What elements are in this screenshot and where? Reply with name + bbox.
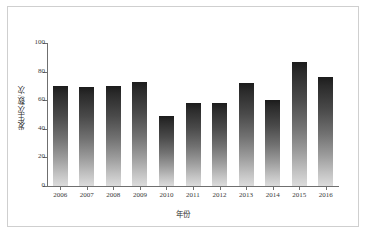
x-tick-mark xyxy=(60,186,61,190)
bar[interactable] xyxy=(212,103,227,186)
x-axis-title: 年份 xyxy=(0,208,367,219)
x-tick-mark xyxy=(273,186,274,190)
x-tick-mark xyxy=(326,186,327,190)
bar[interactable] xyxy=(132,82,147,186)
bar[interactable] xyxy=(106,86,121,186)
x-tick-mark xyxy=(246,186,247,190)
x-tick-mark xyxy=(299,186,300,190)
bar[interactable] xyxy=(318,77,333,186)
y-tick-label: 0 xyxy=(42,181,46,190)
x-tick-label: 2010 xyxy=(153,191,180,199)
x-tick-label: 2006 xyxy=(47,191,74,199)
y-tick-label: 80 xyxy=(38,67,45,76)
y-tick-label: 40 xyxy=(38,124,45,133)
bar[interactable] xyxy=(79,87,94,186)
chart-canvas: 发生次数/次 020406080100 20062007200820092010… xyxy=(0,0,367,235)
x-tick-mark xyxy=(113,186,114,190)
x-tick-mark xyxy=(220,186,221,190)
x-tick-mark xyxy=(193,186,194,190)
bar[interactable] xyxy=(239,83,254,186)
bar[interactable] xyxy=(159,116,174,186)
x-tick-label: 2014 xyxy=(259,191,286,199)
bar[interactable] xyxy=(265,100,280,186)
x-tick-mark xyxy=(140,186,141,190)
y-tick-label: 60 xyxy=(38,95,45,104)
x-tick-label: 2015 xyxy=(286,191,313,199)
x-tick-mark xyxy=(87,186,88,190)
x-tick-label: 2013 xyxy=(233,191,260,199)
bar[interactable] xyxy=(53,86,68,186)
x-tick-label: 2016 xyxy=(312,191,339,199)
y-axis-line xyxy=(47,43,48,187)
y-tick-label: 100 xyxy=(35,38,46,47)
x-tick-label: 2008 xyxy=(100,191,127,199)
bar[interactable] xyxy=(186,103,201,186)
x-tick-label: 2009 xyxy=(127,191,154,199)
y-axis-title: 发生次数/次 xyxy=(16,86,28,130)
x-tick-label: 2012 xyxy=(206,191,233,199)
y-tick-label: 20 xyxy=(38,152,45,161)
x-tick-label: 2007 xyxy=(74,191,101,199)
bar[interactable] xyxy=(292,62,307,186)
x-tick-mark xyxy=(166,186,167,190)
x-tick-label: 2011 xyxy=(180,191,207,199)
